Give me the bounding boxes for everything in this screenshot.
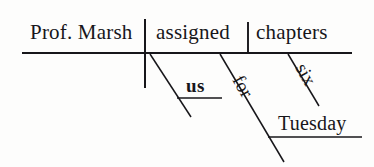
subject-label: Prof. Marsh [30,22,133,43]
indirect-object-label: us [186,76,205,95]
verb-label: assigned [156,22,230,43]
direct-object-label: chapters [256,22,328,43]
sentence-diagram: Prof. Marsh assigned chapters us for six… [0,0,374,167]
preposition-slant-line [220,54,284,162]
prep-object-label: Tuesday [278,113,346,133]
indirect-object-slant-line [150,54,191,117]
